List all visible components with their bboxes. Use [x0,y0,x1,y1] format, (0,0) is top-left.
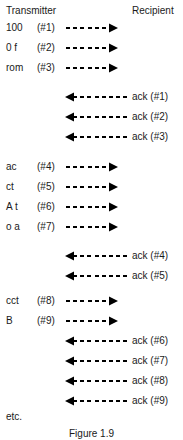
send-sequence-number: (#4) [37,160,65,174]
ack-label: ack (#1) [132,90,168,104]
send-payload-label: ct [6,180,36,194]
send-payload-label: A t [6,200,36,214]
ack-row: ack (#4) [0,249,183,263]
dashed-arrow-right-icon [66,63,118,73]
send-sequence-number: (#2) [37,41,65,55]
dashed-arrow-right-icon [66,23,118,33]
send-payload-label: ac [6,160,36,174]
send-payload-label: rom [6,61,36,75]
dashed-arrow-left-icon [64,336,130,346]
send-sequence-number: (#8) [37,294,65,308]
dashed-arrow-left-icon [64,271,130,281]
ack-row: ack (#5) [0,269,183,283]
dashed-arrow-right-icon [66,222,118,232]
send-payload-label: 100 [6,21,36,35]
dashed-arrow-right-icon [66,182,118,192]
send-row: cct(#8) [0,294,183,308]
ack-row: ack (#3) [0,130,183,144]
dashed-arrow-left-icon [64,396,130,406]
dashed-arrow-right-icon [66,202,118,212]
ack-row: ack (#7) [0,354,183,368]
ack-row: ack (#6) [0,334,183,348]
send-sequence-number: (#5) [37,180,65,194]
ack-row: ack (#8) [0,374,183,388]
dashed-arrow-right-icon [66,162,118,172]
ack-label: ack (#5) [132,269,168,283]
dashed-arrow-left-icon [64,251,130,261]
etc-label: etc. [6,411,22,423]
send-row: 0 f(#2) [0,41,183,55]
dashed-arrow-left-icon [64,92,130,102]
ack-row: ack (#1) [0,90,183,104]
send-row: 100(#1) [0,21,183,35]
send-sequence-number: (#9) [37,314,65,328]
ack-row: ack (#9) [0,394,183,408]
ack-label: ack (#6) [132,334,168,348]
ack-row: ack (#2) [0,110,183,124]
send-row: o a(#7) [0,220,183,234]
ack-label: ack (#8) [132,374,168,388]
send-sequence-number: (#3) [37,61,65,75]
send-row: A t(#6) [0,200,183,214]
send-sequence-number: (#1) [37,21,65,35]
send-row: ct(#5) [0,180,183,194]
dashed-arrow-left-icon [64,376,130,386]
ack-label: ack (#7) [132,354,168,368]
ack-label: ack (#3) [132,130,168,144]
send-row: ac(#4) [0,160,183,174]
figure-caption: Figure 1.9 [0,428,183,440]
send-payload-label: cct [6,294,36,308]
ack-label: ack (#9) [132,394,168,408]
column-header-transmitter: Transmitter [6,5,56,17]
ack-label: ack (#4) [132,249,168,263]
send-row: rom(#3) [0,61,183,75]
dashed-arrow-left-icon [64,356,130,366]
column-header-recipient: Recipient [132,5,174,17]
send-payload-label: o a [6,220,36,234]
send-row: B(#9) [0,314,183,328]
send-payload-label: B [6,314,36,328]
send-sequence-number: (#7) [37,220,65,234]
dashed-arrow-right-icon [66,43,118,53]
dashed-arrow-right-icon [66,296,118,306]
send-sequence-number: (#6) [37,200,65,214]
dashed-arrow-right-icon [66,316,118,326]
dashed-arrow-left-icon [64,112,130,122]
dashed-arrow-left-icon [64,132,130,142]
send-payload-label: 0 f [6,41,36,55]
ack-label: ack (#2) [132,110,168,124]
